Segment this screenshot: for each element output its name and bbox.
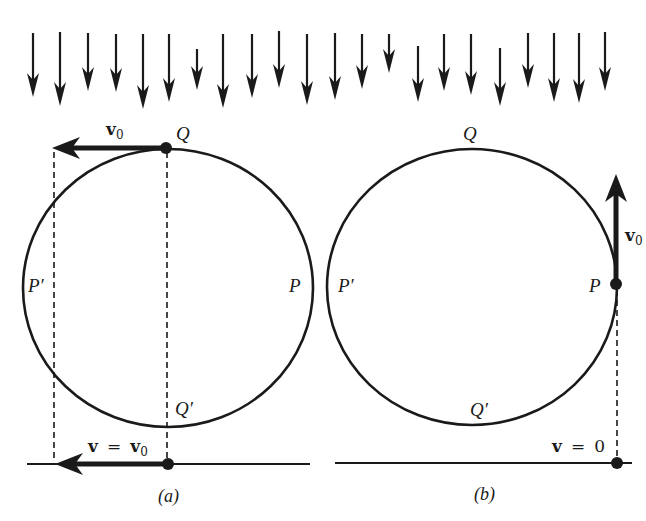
- label-p-a: P: [288, 275, 301, 296]
- field-arrow-down-icon: [329, 33, 341, 100]
- field-arrow-down-icon: [494, 48, 506, 106]
- field-arrow-down-icon: [110, 34, 122, 92]
- panel-a: v0 Q P′ P Q′ v = v0 (a): [23, 119, 313, 507]
- field-arrow-down-icon: [82, 33, 94, 91]
- velocity-arrow-side-b: [605, 174, 627, 290]
- label-q-prime-a: Q′: [175, 398, 194, 419]
- field-arrow-down-icon: [356, 34, 368, 89]
- field-arrow-down-icon: [246, 34, 258, 98]
- contact-point-dot-b: [611, 457, 623, 469]
- field-arrow-down-icon: [465, 34, 477, 95]
- field-arrow-down-icon: [273, 31, 285, 88]
- wheel-circle-b: [327, 149, 617, 425]
- rolling-wheel-diagram: v0 Q P′ P Q′ v = v0 (a) Q P′ P Q′ v0 v =…: [0, 0, 646, 521]
- field-arrow-down-icon: [573, 33, 585, 103]
- label-v-equals-0-b: v = 0: [551, 436, 605, 456]
- label-q-b: Q: [463, 123, 477, 144]
- label-q-a: Q: [176, 123, 190, 144]
- label-p-prime-b: P′: [337, 275, 355, 296]
- caption-b: (b): [474, 484, 495, 505]
- field-arrow-down-icon: [522, 33, 534, 88]
- field-arrow-down-icon: [191, 49, 203, 90]
- velocity-arrow-bottom-a: [55, 453, 174, 475]
- field-arrow-down-icon: [137, 34, 149, 109]
- label-v-equals-v0-a: v = v0: [87, 436, 148, 459]
- field-arrow-down-icon: [438, 34, 450, 91]
- point-q-dot-a: [160, 142, 172, 154]
- point-p-dot-b: [610, 278, 622, 290]
- contact-point-dot-a: [162, 458, 174, 470]
- field-arrow-down-icon: [548, 33, 560, 102]
- field-arrow-down-icon: [412, 46, 424, 102]
- field-arrow-down-icon: [27, 33, 39, 97]
- wheel-circle-a: [23, 149, 313, 427]
- label-p-prime-a: P′: [27, 275, 45, 296]
- field-arrow-down-icon: [163, 34, 175, 102]
- field-arrow-down-icon: [217, 34, 229, 108]
- field-arrow-down-icon: [301, 34, 313, 105]
- label-v0-top-a: v0: [105, 119, 124, 142]
- velocity-arrow-top-a: [52, 137, 172, 159]
- downward-field-arrows: [27, 31, 611, 109]
- caption-a: (a): [158, 486, 179, 507]
- field-arrow-down-icon: [599, 32, 611, 91]
- field-arrow-down-icon: [383, 34, 395, 73]
- label-v0-side-b: v0: [624, 225, 643, 248]
- field-arrow-down-icon: [54, 32, 66, 106]
- label-p-b: P: [588, 275, 601, 296]
- label-q-prime-b: Q′: [470, 399, 489, 420]
- panel-b: Q P′ P Q′ v0 v = 0 (b): [327, 123, 643, 505]
